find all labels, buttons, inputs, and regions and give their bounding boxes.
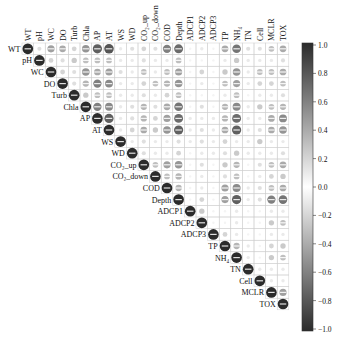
coefficient-mark — [233, 164, 239, 165]
colorbar-tick-label: −0.8 — [318, 297, 332, 306]
correlation-circle: WD ~ COD: 0.1 — [165, 152, 168, 155]
column-label: Turb — [70, 26, 79, 41]
coefficient-mark — [106, 71, 112, 72]
row-label: TP — [208, 242, 218, 251]
correlation-circle: WT ~ WS: 0.1 — [119, 47, 122, 50]
correlation-circle: ADCP1 ~ ADCP3: 0.05 — [212, 210, 214, 212]
row-label: MCLR — [241, 288, 264, 297]
correlation-circle: ADCP2 ~ TP: 0.05 — [224, 222, 226, 224]
correlation-circle: DO ~ ADCP3: 0.05 — [212, 82, 214, 84]
coefficient-mark — [233, 95, 239, 96]
coefficient-mark — [175, 187, 181, 188]
coefficient-mark — [233, 187, 239, 188]
coefficient-mark — [94, 106, 100, 107]
coefficient-mark — [94, 48, 100, 49]
correlation-circle: pH ~ TOX: 0.15 — [281, 58, 285, 62]
correlation-circle: pH ~ NH₄: 0.25 — [234, 58, 239, 63]
coefficient-mark — [280, 83, 286, 84]
column-label: WS — [117, 29, 126, 41]
coefficient-mark — [106, 83, 112, 84]
correlation-circle: Chla ~ WS: 0.1 — [119, 105, 122, 108]
coefficient-mark — [175, 176, 181, 177]
correlation-circle: WS ~ CO₂_up: 0.15 — [142, 140, 146, 144]
colorbar-tick-label: 0.6 — [318, 98, 328, 107]
coefficient-mark — [280, 199, 286, 200]
coefficient-mark — [233, 106, 239, 107]
correlation-circle: Depth ~ ADCP2: 0.2 — [199, 197, 204, 202]
column-label: pH — [35, 31, 44, 41]
correlation-circle: Turb ~ WD: 0.1 — [131, 94, 134, 97]
coefficient-mark — [164, 106, 170, 107]
colorbar-tick-label: 1.0 — [318, 41, 328, 50]
column-label: NH₄ — [233, 26, 242, 41]
coefficient-mark — [280, 292, 286, 293]
correlation-circle: WC ~ ADCP1: 0.05 — [189, 71, 191, 73]
coefficient-mark — [164, 118, 170, 119]
column-label: ADCP3 — [209, 16, 218, 41]
correlation-circle: COD ~ TN: 0.1 — [247, 186, 250, 189]
correlation-circle: pH ~ CO₂_down: 0.1 — [154, 59, 157, 62]
coefficient-mark — [83, 71, 89, 72]
correlation-circle: WS ~ Depth: 0.15 — [177, 140, 181, 144]
correlation-circle: WT ~ WD: 0.15 — [130, 47, 134, 51]
coefficient-mark — [175, 106, 181, 107]
correlation-circle: CO₂_up ~ TN: 0.05 — [247, 164, 249, 166]
coefficient-mark — [280, 303, 286, 304]
correlation-plot-svg: WT ~ WT: 1WT ~ pH: 0.15WT ~ WC: 0.45WT ~… — [0, 0, 342, 340]
row-label: DO — [44, 80, 56, 89]
correlation-circle: pH ~ TP: 0.1 — [223, 59, 226, 62]
correlation-circle: COD ~ ADCP3: 0.05 — [212, 187, 214, 189]
correlation-circle: WS ~ WD: 0.1 — [131, 140, 134, 143]
correlation-circle: CO₂_up ~ ADCP2: 0.15 — [200, 163, 204, 167]
coefficient-mark — [280, 106, 286, 107]
correlation-circle: DO ~ ADCP2: 0.1 — [200, 82, 203, 85]
correlation-circle: Depth ~ ADCP3: 0.05 — [212, 198, 214, 200]
row-label: WS — [101, 138, 113, 147]
row-label: TN — [230, 265, 241, 274]
correlation-circle: COD ~ ADCP1: 0.05 — [189, 187, 191, 189]
correlation-circle: WC ~ TN: 0.1 — [247, 70, 250, 73]
correlation-circle: CO₂_up ~ ADCP3: 0.05 — [212, 164, 214, 166]
coefficient-mark — [94, 83, 100, 84]
correlation-circle: Turb ~ CO₂_down: 0.1 — [154, 94, 157, 97]
correlation-circle: ADCP1 ~ TN: 0.05 — [247, 210, 249, 212]
correlation-circle: ADCP2 ~ NH₄: 0.1 — [235, 221, 238, 224]
correlation-circle: AP ~ ADCP1: 0.1 — [189, 117, 192, 120]
row-label: WD — [112, 149, 126, 158]
column-label: CO₂_up — [140, 15, 149, 41]
correlation-circle: DO ~ TN: 0.1 — [247, 82, 250, 85]
row-label: ADCP3 — [181, 230, 206, 239]
coefficient-mark — [25, 48, 31, 49]
coefficient-mark — [141, 129, 147, 130]
correlation-circle: WD ~ ADCP1: 0.05 — [189, 152, 191, 154]
correlation-circle: WS ~ Cell: 0.25 — [257, 139, 262, 144]
coefficient-mark — [94, 60, 100, 61]
correlation-circle: WC ~ ADCP2: 0.2 — [199, 70, 204, 75]
coefficient-mark — [222, 129, 228, 130]
correlation-circle: ADCP2 ~ TN: 0.05 — [247, 222, 249, 224]
coefficient-mark — [175, 164, 181, 165]
coefficient-mark — [233, 176, 239, 177]
correlation-circle: Turb ~ ADCP3: 0.05 — [212, 94, 214, 96]
correlation-circle: WD ~ Depth: 0.2 — [176, 151, 181, 156]
row-label: ADCP2 — [169, 219, 194, 228]
correlation-circle: ADCP3 ~ TP: 0.2 — [223, 232, 228, 237]
coefficient-mark — [210, 234, 216, 235]
correlation-circle: CO₂_down ~ ADCP3: 0.05 — [212, 175, 214, 177]
coefficient-mark — [94, 118, 100, 119]
coefficient-mark — [48, 71, 54, 72]
colorbar-tick-label: 0.0 — [318, 183, 328, 192]
correlation-circle: ADCP3 ~ NH₄: 0.1 — [235, 233, 238, 236]
coefficient-mark — [175, 129, 181, 130]
coefficient-mark — [280, 257, 286, 258]
correlation-circle: DO ~ MCLR: 0.2 — [269, 81, 274, 86]
coefficient-mark — [152, 164, 158, 165]
correlation-circle: pH ~ DO: 0.15 — [61, 58, 65, 62]
coefficient-mark — [83, 60, 89, 61]
correlation-circle: WC ~ WS: 0.15 — [119, 70, 123, 74]
colorbar-gradient — [302, 43, 313, 331]
correlation-circle: WT ~ CO₂_up: 0.2 — [141, 46, 146, 51]
correlation-circle: AP ~ TN: 0.1 — [247, 117, 250, 120]
colorbar-tick-label: −0.4 — [318, 240, 332, 249]
correlation-circle: TN ~ Cell: 0.1 — [258, 268, 261, 271]
